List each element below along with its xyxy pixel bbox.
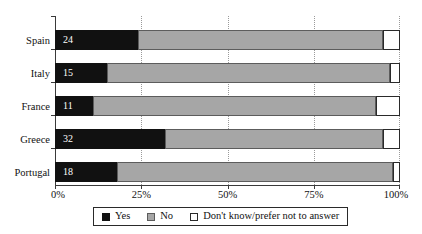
bar-row-spain: 24 [55, 30, 400, 50]
legend-label-dontknow: Don't know/prefer not to answer [203, 211, 339, 222]
legend-swatch-no-icon [147, 213, 155, 221]
bar-row-italy: 15 [55, 63, 400, 83]
bar-row-france: 11 [55, 96, 400, 116]
bar-segment-dontknow [393, 162, 400, 182]
legend-label-yes: Yes [115, 211, 130, 222]
category-label-spain: Spain [26, 36, 50, 47]
bar-segment-yes: 18 [55, 162, 117, 182]
bar-segment-yes: 11 [55, 96, 93, 116]
bar-segment-yes: 32 [55, 129, 165, 149]
bar-segment-yes: 15 [55, 63, 107, 83]
bar-segment-no [138, 30, 383, 50]
legend-item-dontknow: Don't know/prefer not to answer [190, 211, 339, 222]
bar-segment-dontknow [383, 129, 400, 149]
legend-swatch-dontknow-icon [190, 213, 198, 221]
bar-segment-no [117, 162, 393, 182]
plot-area: 24 15 11 32 [55, 16, 400, 185]
bar-segment-dontknow [390, 63, 400, 83]
legend-item-yes: Yes [102, 211, 130, 222]
category-label-portugal: Portugal [14, 168, 50, 179]
bar-row-portugal: 18 [55, 162, 400, 182]
category-label-greece: Greece [20, 135, 50, 146]
bar-segment-no [165, 129, 382, 149]
category-axis-labels: Spain Italy France Greece Portugal [0, 16, 50, 185]
bar-value-label: 11 [63, 101, 73, 111]
legend-swatch-yes-icon [102, 213, 110, 221]
chart-legend: Yes No Don't know/prefer not to answer [93, 207, 348, 226]
category-label-france: France [21, 102, 50, 113]
bar-segment-no [93, 96, 376, 116]
x-tick-label-25: 25% [132, 190, 151, 201]
x-tick-label-0: 0% [51, 190, 65, 201]
legend-item-no: No [147, 211, 173, 222]
bar-segment-yes: 24 [55, 30, 138, 50]
x-tick-label-100: 100% [384, 190, 409, 201]
bar-value-label: 15 [63, 68, 73, 78]
bar-segment-dontknow [383, 30, 400, 50]
bar-value-label: 18 [63, 167, 73, 177]
bar-row-greece: 32 [55, 129, 400, 149]
bar-value-label: 32 [63, 134, 73, 144]
bar-segment-dontknow [376, 96, 400, 116]
x-tick-label-50: 50% [218, 190, 237, 201]
legend-label-no: No [160, 211, 173, 222]
x-tick-label-75: 75% [304, 190, 323, 201]
y-tick-0 [51, 16, 55, 17]
category-label-italy: Italy [31, 69, 50, 80]
bar-segment-no [107, 63, 390, 83]
stacked-bar-chart: Spain Italy France Greece Portugal 24 [0, 0, 422, 234]
bar-value-label: 24 [63, 35, 73, 45]
